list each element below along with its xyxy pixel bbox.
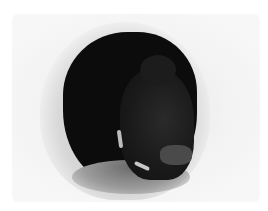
photo-frame [0,0,268,211]
person-glove [160,145,192,165]
person-head [140,55,176,85]
